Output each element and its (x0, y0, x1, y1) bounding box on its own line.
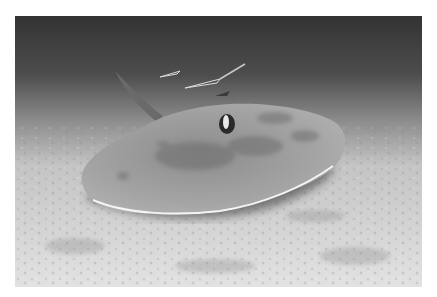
stingray-photo (15, 16, 422, 287)
photo-illustration (15, 16, 422, 287)
ray-eye-highlight (223, 115, 229, 129)
